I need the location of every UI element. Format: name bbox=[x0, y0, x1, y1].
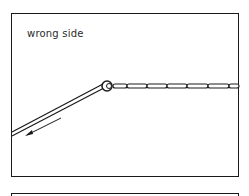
chain-stitches bbox=[113, 84, 239, 88]
next-panel-frame bbox=[11, 193, 239, 196]
stitch-diagram bbox=[0, 0, 249, 196]
ring-icon bbox=[102, 81, 112, 91]
thread-line bbox=[12, 84, 104, 136]
